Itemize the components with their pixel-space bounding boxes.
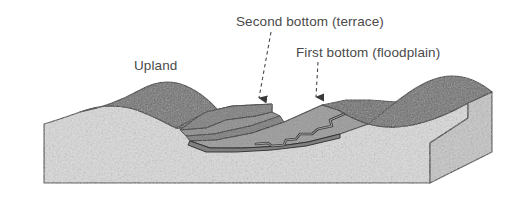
label-first-bottom: First bottom (floodplain) xyxy=(296,45,440,60)
leader-second-bottom xyxy=(259,32,271,98)
label-second-bottom: Second bottom (terrace) xyxy=(236,14,384,29)
leader-lines xyxy=(259,32,318,98)
block-diagram-figure: Upland Second bottom (terrace) First bot… xyxy=(0,0,532,199)
label-upland: Upland xyxy=(134,58,177,73)
leader-first-bottom xyxy=(316,62,318,97)
valley-block-diagram xyxy=(0,0,532,199)
